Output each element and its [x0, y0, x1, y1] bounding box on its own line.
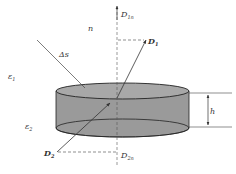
label-n: n	[88, 24, 93, 33]
cylinder-top-face	[56, 83, 189, 99]
label-eps1: ε1	[8, 72, 15, 82]
label-d1n: D1n	[120, 10, 134, 20]
label-h: h	[210, 107, 215, 116]
label-eps2: ε2	[25, 122, 32, 132]
label-delta-s: Δs	[58, 50, 69, 59]
label-d2: D2	[43, 148, 55, 159]
label-d2n: D2n	[120, 151, 134, 161]
pillbox-diagram: D1n n D1 Δs ε1 ε2 h D2 D2n	[0, 0, 236, 174]
delta-s-leader	[37, 40, 85, 88]
label-d1: D1	[147, 36, 158, 47]
cylinder	[56, 83, 189, 137]
